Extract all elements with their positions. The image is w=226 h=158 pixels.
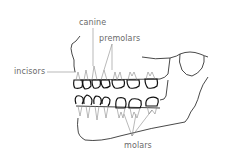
zygomatic-outline [142,52,208,59]
upper-roots [76,66,155,80]
leader-lines [47,28,152,136]
mandible-outline [78,77,209,141]
label-canine: canine [79,19,106,27]
upper-teeth [74,79,158,89]
condyle-outline [179,54,204,76]
label-premolars: premolars [99,35,140,43]
mandible-ramus [160,80,168,100]
jaw-diagram [0,0,226,158]
maxilla-outline [71,36,80,72]
label-incisors: incisors [14,68,45,76]
label-molars: molars [124,142,152,150]
